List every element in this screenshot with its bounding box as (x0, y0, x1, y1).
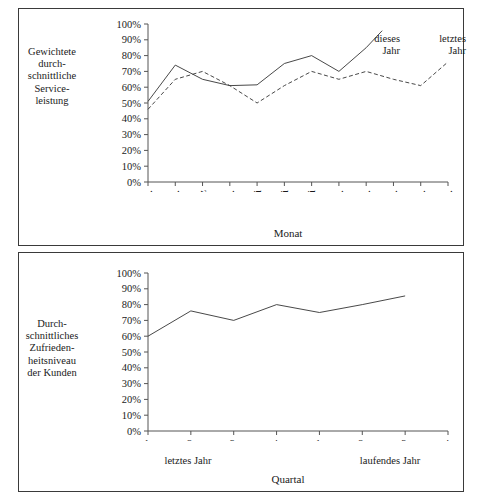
x-tick-label: 2. (187, 438, 195, 441)
y-tick-label: 100% (117, 19, 142, 30)
y-tick-label: 20% (122, 145, 142, 156)
x-tick-label: 3. (230, 438, 238, 441)
y-tick-label: 70% (122, 315, 142, 326)
y-tick-label: 50% (122, 98, 142, 109)
x-tick-label: Mai (252, 190, 263, 192)
x-tick-label: Juli (306, 190, 317, 192)
y-tick-label: 60% (122, 82, 142, 93)
y-tick-label: 20% (122, 394, 142, 405)
y-tick-label: 90% (122, 34, 142, 45)
x-axis-title-monat: Monat (114, 227, 462, 239)
y-tick-label: 40% (122, 362, 142, 373)
x-tick-label: Aug. (334, 190, 345, 192)
y-tick-label: 80% (122, 50, 142, 61)
line-chart-satisfaction: 0%10%20%30%40%50%60%70%80%90%100%1.2.3.4… (114, 265, 462, 441)
y-tick-label: 0% (127, 177, 141, 188)
x-tick-label: Okt. (388, 190, 399, 192)
x-tick-label: 4. (444, 438, 452, 441)
y-tick-label: 10% (122, 161, 142, 172)
series-line-solid (148, 48, 366, 102)
x-tick-label: 4. (273, 438, 281, 441)
y-tick-label: 100% (117, 268, 142, 279)
line-chart-service: 0%10%20%30%40%50%60%70%80%90%100%Jan.Feb… (114, 16, 462, 192)
y-axis-title-service: Gewichtete durch- schnittliche Service- … (8, 46, 96, 107)
y-tick-label: 50% (122, 347, 142, 358)
x-tick-label: 1. (315, 438, 323, 441)
y-tick-label: 90% (122, 283, 142, 294)
x-tick-label: 3. (401, 438, 409, 441)
y-tick-label: 30% (122, 129, 142, 140)
group-label-laufendes-jahr: laufendes Jahr (330, 455, 450, 466)
y-tick-label: 70% (122, 66, 142, 77)
service-plot-svg: 0%10%20%30%40%50%60%70%80%90%100%Jan.Feb… (114, 16, 462, 192)
y-tick-label: 10% (122, 410, 142, 421)
x-tick-label: 2. (358, 438, 366, 441)
satisfaction-plot-svg: 0%10%20%30%40%50%60%70%80%90%100%1.2.3.4… (114, 265, 462, 441)
x-tick-label: Jan. (143, 190, 154, 192)
series-line-dashed (148, 62, 448, 109)
x-tick-label: März (197, 190, 208, 192)
x-tick-label: Juni (279, 190, 290, 192)
x-tick-label: Feb. (170, 190, 181, 192)
series-line-solid (148, 296, 405, 336)
x-tick-label: Nov. (416, 190, 427, 192)
y-tick-label: 80% (122, 299, 142, 310)
x-tick-label: Sept. (361, 190, 372, 192)
y-tick-label: 40% (122, 113, 142, 124)
series-label-letztes-jahr: letztes Jahr (420, 33, 466, 57)
x-tick-label: Apr. (225, 190, 236, 192)
x-tick-label: Dez. (443, 190, 454, 192)
y-axis-title-satisfaction: Durch- schnittliches Zufrieden- heitsniv… (8, 318, 96, 379)
y-tick-label: 60% (122, 331, 142, 342)
series-label-dieses-jahr: dieses Jahr (354, 33, 400, 57)
x-axis-title-quartal: Quartal (114, 473, 462, 485)
x-tick-label: 1. (144, 438, 152, 441)
y-tick-label: 0% (127, 426, 141, 437)
y-tick-label: 30% (122, 378, 142, 389)
group-label-letztes-jahr: letztes Jahr (128, 455, 248, 466)
